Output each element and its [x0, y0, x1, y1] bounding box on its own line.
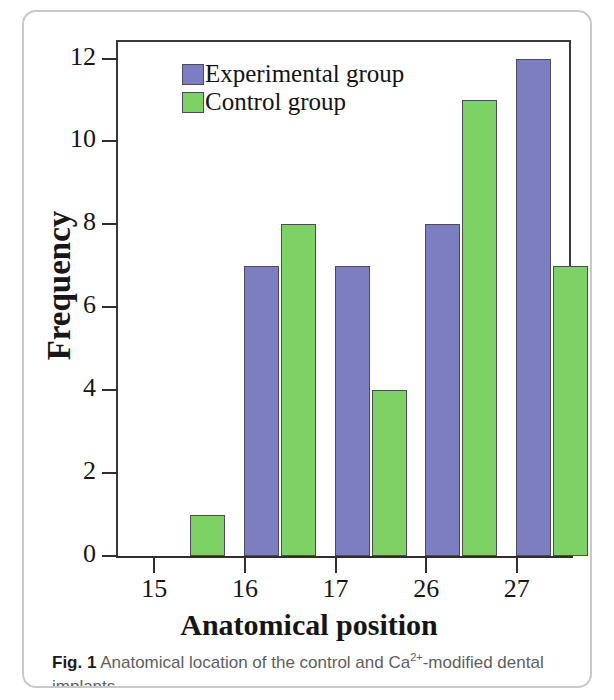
y-tick-label: 4	[36, 373, 96, 403]
y-tick-label: 6	[36, 290, 96, 320]
x-tick-mark	[335, 558, 337, 573]
caption-figure-number: Fig. 1	[52, 653, 96, 672]
y-tick-mark	[102, 223, 118, 225]
x-axis-line	[116, 556, 573, 558]
y-axis-label: Frequency	[41, 166, 78, 406]
y-tick-mark	[102, 306, 118, 308]
bar	[335, 266, 370, 556]
y-tick-label: 0	[36, 539, 96, 569]
bar	[553, 266, 588, 556]
x-tick-mark	[153, 558, 155, 573]
y-tick-label: 2	[36, 456, 96, 486]
bars-layer	[118, 42, 571, 556]
figure-caption: Fig. 1 Anatomical location of the contro…	[52, 650, 572, 688]
bar	[281, 224, 316, 556]
x-tick-mark	[516, 558, 518, 573]
legend-label: Experimental group	[205, 60, 404, 88]
y-tick-label: 10	[36, 124, 96, 154]
x-tick-label: 26	[391, 574, 461, 604]
bar	[425, 224, 460, 556]
x-tick-label: 16	[210, 574, 280, 604]
bar	[372, 390, 407, 556]
legend-label: Control group	[205, 88, 346, 116]
legend-row: Experimental group	[182, 60, 482, 88]
y-tick-mark	[102, 389, 118, 391]
x-tick-label: 15	[119, 574, 189, 604]
y-tick-mark	[102, 140, 118, 142]
bar	[462, 100, 497, 556]
y-tick-mark	[102, 58, 118, 60]
x-tick-mark	[425, 558, 427, 573]
y-tick-label: 8	[36, 207, 96, 237]
y-tick-mark	[102, 472, 118, 474]
caption-superscript: 2+	[410, 651, 423, 663]
caption-body: Anatomical location of the control and C…	[96, 653, 410, 672]
x-tick-label: 17	[301, 574, 371, 604]
chart-area: Frequency 024681012 1516172627 Experimen…	[24, 12, 592, 612]
bar	[244, 266, 279, 556]
x-axis-label: Anatomical position	[24, 608, 592, 642]
y-tick-label: 12	[36, 42, 96, 72]
x-tick-mark	[244, 558, 246, 573]
bar	[190, 515, 225, 556]
chart-legend: Experimental groupControl group	[182, 60, 482, 116]
legend-swatch	[182, 92, 204, 113]
figure-card: Frequency 024681012 1516172627 Experimen…	[22, 10, 592, 688]
y-tick-mark	[102, 555, 118, 557]
legend-row: Control group	[182, 88, 482, 116]
legend-swatch	[182, 64, 204, 85]
bar	[516, 59, 551, 556]
x-tick-label: 27	[482, 574, 552, 604]
